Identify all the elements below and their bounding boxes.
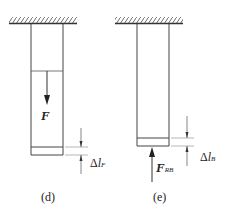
delta-subscript-e: B	[211, 155, 215, 163]
dim-arrowhead-top-e	[186, 132, 189, 138]
caption-e: (e)	[153, 190, 166, 205]
dim-arrowhead-bottom-e	[186, 146, 189, 152]
force-subscript-e: RB	[165, 166, 174, 174]
force-symbol-d: F	[41, 108, 50, 123]
panel-e	[115, 17, 194, 182]
dim-arrowhead-bottom-d	[80, 155, 83, 161]
delta-label-d: ΔlF	[90, 156, 105, 171]
fixed-support-hatch-d	[9, 17, 77, 23]
force-arrow-head-e	[149, 147, 155, 157]
fixed-support-hatch-e	[115, 17, 183, 23]
force-label-e: FRB	[156, 160, 173, 176]
caption-d: (d)	[41, 190, 55, 205]
delta-label-e: ΔlB	[200, 150, 215, 165]
force-symbol-e: F	[156, 160, 165, 175]
diagram-canvas	[0, 0, 228, 210]
force-label-d: F	[41, 108, 50, 124]
delta-symbol-e: Δ	[200, 150, 208, 164]
panel-d	[9, 17, 88, 174]
force-arrow-head-d	[44, 95, 50, 105]
delta-subscript-d: F	[101, 161, 105, 169]
delta-symbol-d: Δ	[90, 156, 98, 170]
dim-arrowhead-top-d	[80, 141, 83, 147]
